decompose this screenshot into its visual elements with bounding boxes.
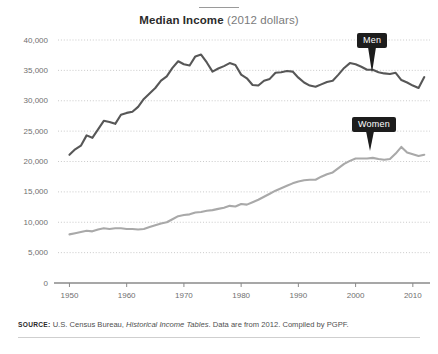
x-axis-tick-label: 1980: [232, 291, 250, 300]
y-axis-tick-label: 15,000: [24, 187, 49, 196]
source-text-after: . Data are from 2012. Compiled by PGPF.: [209, 320, 349, 329]
source-text-before: U.S. Census Bureau,: [51, 320, 127, 329]
x-axis-tick-label: 1970: [175, 291, 193, 300]
source-label: SOURCE:: [18, 321, 51, 328]
y-axis-tick-label: 35,000: [24, 66, 49, 75]
x-axis-tick-label: 2010: [404, 291, 422, 300]
source-note: SOURCE: U.S. Census Bureau, Historical I…: [18, 320, 428, 330]
y-axis-tick-label: 20,000: [24, 157, 49, 166]
y-axis-tick-label: 5,000: [28, 248, 49, 257]
x-axis-tick-label: 2000: [347, 291, 365, 300]
series-line-women: [69, 147, 424, 234]
callout-label-women: Women: [352, 117, 396, 132]
y-axis-tick-label: 0: [44, 279, 49, 288]
x-axis-tick-label: 1990: [289, 291, 307, 300]
chart-figure: Median Income (2012 dollars) 05,00010,00…: [0, 0, 438, 354]
y-axis-tick-label: 25,000: [24, 127, 49, 136]
y-axis-tick-label: 30,000: [24, 96, 49, 105]
y-axis-tick-label: 40,000: [24, 36, 49, 45]
x-axis-tick-label: 1950: [61, 291, 79, 300]
callout-tail-men: [368, 47, 376, 73]
x-axis-labels-group: 1950196019701980199020002010: [61, 291, 423, 300]
y-axis-tick-label: 10,000: [24, 218, 49, 227]
y-axis-labels-group: 05,00010,00015,00020,00025,00030,00035,0…: [24, 36, 49, 288]
callout-label-men: Men: [357, 33, 387, 48]
source-publication-title: Historical Income Tables: [126, 320, 208, 329]
source-rule: [18, 337, 420, 338]
x-axis-tick-label: 1960: [118, 291, 136, 300]
x-axis-group: [54, 283, 430, 287]
callout-tail-women: [366, 131, 374, 151]
